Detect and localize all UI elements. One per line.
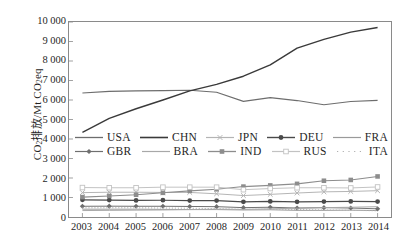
x-tick-2006: 2006 xyxy=(149,221,176,241)
legend-item-ita[interactable]: ITA xyxy=(336,145,388,157)
series-chn xyxy=(82,27,377,132)
legend-swatch-bra-icon xyxy=(141,146,171,157)
y-axis-tick-labels: 01 0002 0003 0004 0005 0006 0007 0008 00… xyxy=(20,0,66,251)
legend-swatch-ind-icon xyxy=(207,146,237,157)
y-tick-4000: 4 000 xyxy=(22,134,66,144)
series-canvas xyxy=(69,22,391,217)
series-rus xyxy=(80,185,380,192)
y-tick-8000: 8 000 xyxy=(22,55,66,65)
legend-item-usa[interactable]: USA xyxy=(74,131,131,143)
legend-label-gbr: GBR xyxy=(107,145,132,157)
y-tick-3000: 3 000 xyxy=(22,154,66,164)
series-jpn xyxy=(80,188,380,198)
legend-item-gbr[interactable]: GBR xyxy=(74,145,132,157)
legend-label-jpn: JPN xyxy=(238,131,258,143)
y-tick-2000: 2 000 xyxy=(22,174,66,184)
legend-item-ind[interactable]: IND xyxy=(207,145,261,157)
legend-label-bra: BRA xyxy=(174,145,199,157)
x-axis-tick-labels: 2003200420052006200720082009201020112012… xyxy=(68,221,392,241)
legend-swatch-jpn-icon xyxy=(205,132,235,143)
plot-area xyxy=(68,21,392,218)
legend-label-ita: ITA xyxy=(369,145,388,157)
x-tick-2009: 2009 xyxy=(230,221,257,241)
y-tick-7000: 7 000 xyxy=(22,75,66,85)
x-tick-2010: 2010 xyxy=(257,221,284,241)
legend-swatch-deu-icon xyxy=(266,132,296,143)
legend-label-deu: DEU xyxy=(299,131,324,143)
y-tick-5000: 5 000 xyxy=(22,115,66,125)
legend-item-fra[interactable]: FRA xyxy=(332,131,388,143)
legend-row-2: GBRBRAINDRUSITA xyxy=(74,145,388,157)
legend-swatch-ita-icon xyxy=(336,146,366,157)
chart-legend: USACHNJPNDEUFRAGBRBRAINDRUSITA xyxy=(74,131,388,157)
x-tick-2007: 2007 xyxy=(176,221,203,241)
x-tick-2011: 2011 xyxy=(284,221,311,241)
legend-label-chn: CHN xyxy=(172,131,197,143)
y-tick-0: 0 xyxy=(22,213,66,223)
legend-item-rus[interactable]: RUS xyxy=(271,145,327,157)
y-tick-9000: 9 000 xyxy=(22,36,66,46)
series-ind xyxy=(80,174,380,199)
x-tick-2008: 2008 xyxy=(203,221,230,241)
legend-item-chn[interactable]: CHN xyxy=(139,131,197,143)
y-tick-1000: 1 000 xyxy=(22,193,66,203)
x-tick-2004: 2004 xyxy=(95,221,122,241)
legend-label-ind: IND xyxy=(240,145,261,157)
legend-swatch-gbr-icon xyxy=(74,146,104,157)
legend-label-usa: USA xyxy=(107,131,131,143)
series-usa xyxy=(82,90,377,104)
legend-swatch-fra-icon xyxy=(332,132,362,143)
x-tick-2013: 2013 xyxy=(338,221,365,241)
legend-swatch-usa-icon xyxy=(74,132,104,143)
y-tick-6000: 6 000 xyxy=(22,95,66,105)
x-tick-2003: 2003 xyxy=(68,221,95,241)
legend-item-bra[interactable]: BRA xyxy=(141,145,199,157)
y-tick-10000: 10 000 xyxy=(22,16,66,26)
x-tick-2012: 2012 xyxy=(311,221,338,241)
legend-item-jpn[interactable]: JPN xyxy=(205,131,258,143)
legend-swatch-rus-icon xyxy=(271,146,301,157)
co2-emissions-line-chart: CO2排放/Mt CO2eq 01 0002 0003 0004 0005 00… xyxy=(0,0,404,251)
series-deu xyxy=(80,197,380,204)
legend-label-rus: RUS xyxy=(304,145,327,157)
legend-item-deu[interactable]: DEU xyxy=(266,131,324,143)
legend-row-1: USACHNJPNDEUFRA xyxy=(74,131,388,143)
legend-swatch-chn-icon xyxy=(139,132,169,143)
legend-label-fra: FRA xyxy=(365,131,388,143)
x-tick-2014: 2014 xyxy=(365,221,392,241)
x-tick-2005: 2005 xyxy=(122,221,149,241)
